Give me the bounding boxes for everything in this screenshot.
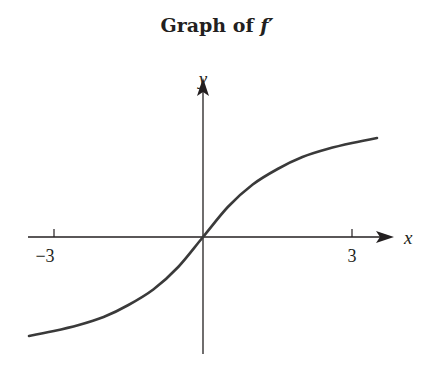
x-tick-label-neg3: −3 — [35, 246, 54, 266]
chart-plot: −3 3 x y — [0, 0, 434, 373]
y-axis-label: y — [197, 68, 208, 89]
x-axis-label: x — [403, 227, 413, 248]
x-tick-label-3: 3 — [348, 246, 357, 266]
